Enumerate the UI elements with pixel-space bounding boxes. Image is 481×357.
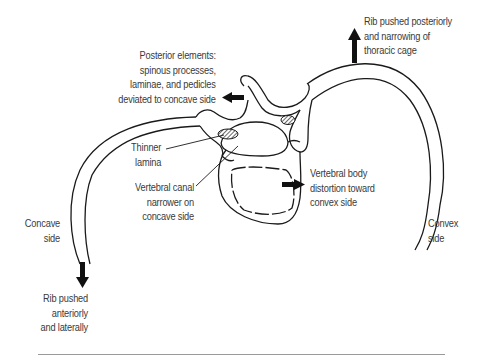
label-line: Vertebral body — [310, 166, 375, 181]
label-line: and laterally — [40, 320, 88, 335]
label-line: side — [25, 231, 60, 246]
label-line: spinous processes, — [119, 63, 216, 78]
label-line: lamina — [131, 155, 161, 170]
label-posterior-elements: Posterior elements: spinous processes, l… — [119, 48, 216, 106]
label-line: distortion toward — [310, 181, 375, 196]
label-concave-side: Concave side — [25, 216, 60, 245]
label-vertebral-body: Vertebral body distortion toward convex … — [310, 166, 375, 210]
label-line: Posterior elements: — [119, 48, 216, 63]
label-line: Thinner — [131, 140, 161, 155]
arrow-left-icon — [222, 92, 244, 103]
label-line: Concave — [25, 216, 60, 231]
bottom-divider — [38, 354, 445, 355]
right-lamina-hatch — [281, 116, 295, 125]
label-line: Rib pushed posteriorly — [364, 14, 452, 29]
label-line: convex side — [310, 195, 375, 210]
arrow-down-icon — [76, 262, 89, 288]
label-line: laminae, and pedicles — [119, 77, 216, 92]
label-rib-posterior: Rib pushed posteriorly and narrowing of … — [364, 14, 452, 58]
thinner-lamina-hatch — [218, 129, 238, 139]
label-line: deviated to concave side — [119, 92, 216, 107]
label-line: Vertebral canal — [135, 180, 194, 195]
label-line: Rib pushed — [40, 291, 88, 306]
label-line: narrower on — [135, 195, 194, 210]
label-vertebral-canal: Vertebral canal narrower on concave side — [135, 180, 194, 224]
label-thinner-lamina: Thinner lamina — [131, 140, 161, 169]
arrow-up-icon — [348, 28, 361, 63]
label-line: anteriorly — [40, 306, 88, 321]
label-convex-side: Convex side — [428, 216, 458, 245]
label-line: concave side — [135, 209, 194, 224]
label-line: thoracic cage — [364, 43, 452, 58]
convex-rib — [307, 64, 443, 250]
label-line: side — [428, 231, 458, 246]
label-line: and narrowing of — [364, 29, 452, 44]
scoliosis-diagram: Posterior elements: spinous processes, l… — [0, 0, 481, 357]
label-line: Convex — [428, 216, 458, 231]
label-rib-anterior: Rib pushed anteriorly and laterally — [40, 291, 88, 335]
